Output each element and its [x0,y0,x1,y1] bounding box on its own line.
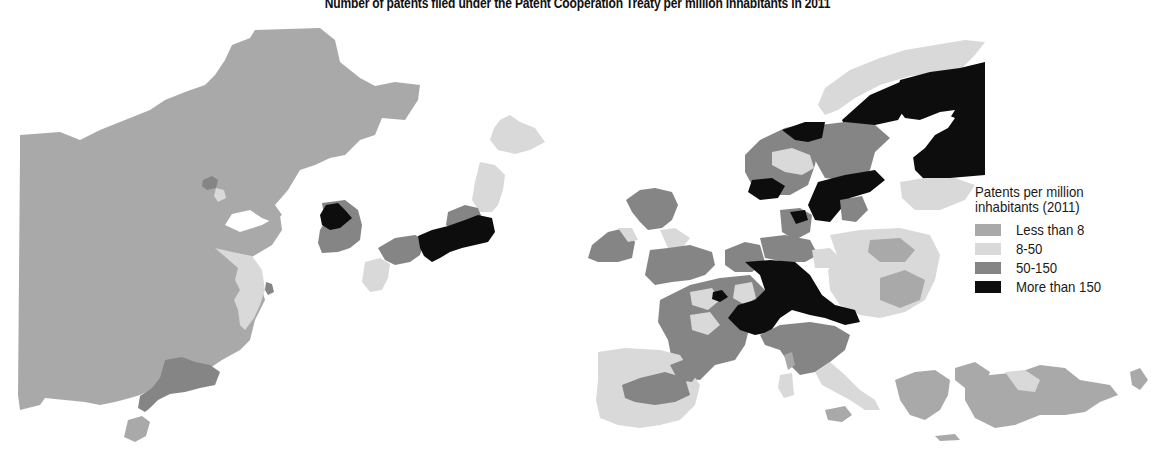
region-greece [895,370,950,420]
region-northern-england [660,228,690,248]
legend-swatch-50-150 [975,262,1001,274]
region-baltics [900,178,975,210]
legend-label: 50-150 [1016,259,1057,276]
legend-swatch-8-50 [975,243,1001,255]
legend-swatch-more-than-150 [975,281,1001,293]
region-germany-north [760,235,818,262]
region-scotland [626,188,678,230]
region-hokkaido [490,115,545,154]
region-sicily [825,406,852,422]
region-kyushu [362,258,390,292]
legend: Patents per million inhabitants (2011) L… [975,184,1113,296]
legend-items: Less than 8 8-50 50-150 More than 150 [975,220,1113,296]
legend-item-less-than-8: Less than 8 [975,220,1113,239]
region-cyprus [1130,368,1148,390]
legend-item-more-than-150: More than 150 [975,277,1113,296]
legend-label: Less than 8 [1016,221,1084,238]
region-western-honshu [378,235,425,265]
region-tohoku [472,162,505,212]
legend-label: More than 150 [1016,278,1101,295]
region-hainan [124,416,150,442]
region-northern-italy [760,322,850,375]
region-sardinia [778,373,794,398]
region-sweden-southeast [840,196,868,222]
legend-title-line1: Patents per million [975,184,1096,199]
legend-item-50-150: 50-150 [975,258,1113,277]
legend-label: 8-50 [1016,240,1042,257]
region-southern-italy [815,362,880,410]
region-england-south [645,245,715,285]
legend-swatch-less-than-8 [975,224,1001,236]
legend-title-line2: inhabitants (2011) [975,199,1096,214]
region-crete [935,434,960,441]
region-shanghai [265,282,274,295]
legend-item-8-50: 8-50 [975,239,1113,258]
